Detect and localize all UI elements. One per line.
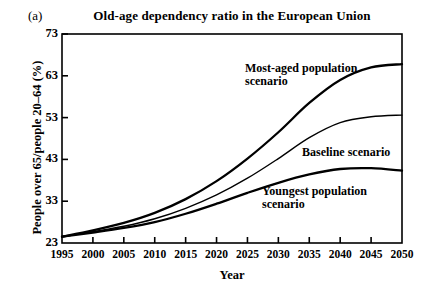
- figure: (a) Old-age dependency ratio in the Euro…: [0, 0, 433, 294]
- series-annotation-1: Baseline scenario: [302, 146, 390, 159]
- series-line-1: [62, 115, 402, 237]
- series-annotation-2: Youngest population scenario: [262, 185, 367, 212]
- series-annotation-0: Most-aged population scenario: [245, 62, 357, 89]
